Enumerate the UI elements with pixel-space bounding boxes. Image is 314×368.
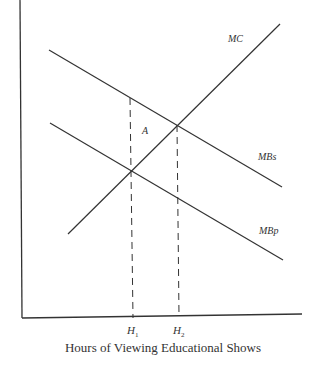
h2-sub: 2: [181, 331, 185, 339]
region-a-label: A: [141, 125, 149, 136]
mbp-label: MBp: [258, 225, 278, 236]
externality-diagram: MC MBs MBp A H1 H2 Hours of Viewing Educ…: [0, 0, 314, 368]
h1-dashed-line: [130, 98, 133, 318]
y-axis: [20, 0, 22, 318]
x-axis: [22, 314, 302, 318]
h2-dashed-line: [177, 125, 179, 316]
mbs-curve: [49, 50, 282, 187]
x-axis-label: Hours of Viewing Educational Shows: [65, 340, 261, 355]
mc-label: MC: [227, 33, 243, 44]
h1-sub: 1: [135, 331, 139, 339]
mc-curve: [68, 24, 280, 234]
mbp-curve: [50, 123, 283, 260]
h1-label: H1: [126, 324, 139, 339]
mbs-label: MBs: [257, 151, 276, 162]
h2-label: H2: [172, 324, 185, 339]
